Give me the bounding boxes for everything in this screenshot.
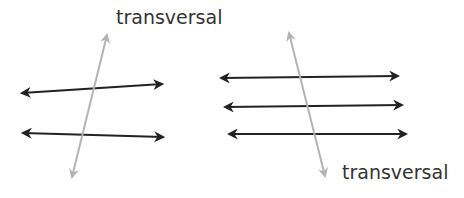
left-line-1 (22, 84, 162, 93)
left-figure (22, 35, 163, 177)
right-transversal (289, 33, 325, 176)
right-line-1 (221, 76, 398, 78)
right-transversal-label: transversal (342, 163, 448, 182)
left-transversal-label: transversal (116, 8, 222, 27)
left-line-2 (23, 133, 163, 137)
transversal-diagram: transversal transversal (0, 0, 464, 198)
right-figure (221, 33, 406, 176)
left-transversal (72, 35, 107, 177)
right-line-2 (225, 105, 402, 107)
